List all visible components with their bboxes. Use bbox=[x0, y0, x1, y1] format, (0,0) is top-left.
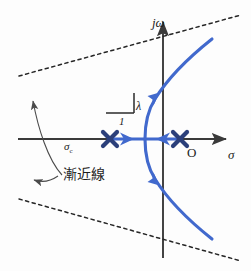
real-axis-label: σ bbox=[228, 148, 234, 161]
asymptote-up bbox=[19, 15, 241, 76]
asymptote-center-label: σc bbox=[64, 141, 73, 155]
root-locus-canvas bbox=[0, 0, 251, 271]
root-locus-figure: σ jω O σc λ 1 漸近線 bbox=[0, 0, 251, 271]
asymptote-leaders bbox=[33, 101, 62, 181]
asymptote-note-label: 漸近線 bbox=[63, 167, 105, 181]
asymptote-center-subscript: c bbox=[69, 147, 72, 155]
origin-label: O bbox=[187, 146, 196, 159]
leader-lower bbox=[34, 176, 58, 181]
leader-upper bbox=[33, 101, 62, 175]
locus-upper-branch bbox=[145, 39, 212, 139]
arrow-lower-branch bbox=[148, 173, 160, 186]
locus-lower-branch bbox=[145, 139, 212, 239]
arrow-upper-branch bbox=[148, 93, 160, 106]
slope-rise-label: λ bbox=[136, 100, 141, 112]
asymptote-down bbox=[19, 199, 241, 261]
imaginary-axis-label: jω bbox=[152, 16, 165, 29]
slope-run-label: 1 bbox=[119, 116, 125, 127]
slope-triangle bbox=[106, 93, 134, 113]
